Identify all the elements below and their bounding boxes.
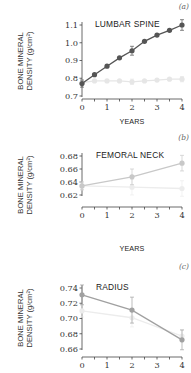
x-tick-label: 4: [179, 360, 184, 370]
data-point: [129, 308, 134, 313]
data-point: [154, 77, 159, 82]
data-point: [167, 77, 172, 82]
chart-figure: (a)0.70.80.91.01.101234YEARSBONE MINERAL…: [0, 0, 191, 373]
panel-title: RADIUS: [96, 282, 129, 292]
x-tick-label: 2: [129, 210, 134, 220]
y-tick-label: 1.1: [65, 20, 78, 30]
panel-letter: (a): [179, 2, 189, 11]
chart-panel-lumbar-spine: (a)0.70.80.91.01.101234YEARSBONE MINERAL…: [16, 2, 189, 126]
y-tick-label: 0.70: [60, 313, 78, 323]
x-tick-label: 3: [154, 210, 159, 220]
data-point: [117, 55, 122, 60]
y-tick-label: 0.66: [60, 344, 78, 354]
x-tick-label: 0: [79, 102, 84, 112]
x-tick-label: 3: [154, 102, 159, 112]
y-tick-label: 0.64: [60, 177, 78, 187]
svg-text:BONE MINERAL: BONE MINERAL: [16, 156, 25, 213]
x-tick-label: 4: [179, 210, 184, 220]
data-point: [129, 174, 134, 179]
data-point: [179, 186, 184, 191]
panel-title: LUMBAR SPINE: [95, 19, 160, 29]
data-point: [142, 39, 147, 44]
y-tick-label: 0.72: [60, 298, 78, 308]
panel-letter: (b): [178, 133, 189, 142]
y-axis-title: BONE MINERALDENSITY (g/cm²): [16, 31, 34, 90]
data-point: [167, 28, 172, 33]
y-tick-label: 0.8: [65, 73, 78, 83]
svg-text:BONE MINERAL: BONE MINERAL: [16, 289, 25, 346]
x-tick-label: 4: [179, 102, 184, 112]
x-tick-label: 1: [104, 102, 109, 112]
x-tick-label: 0: [79, 360, 84, 370]
chart-panel-femoral-neck: (b)0.620.640.660.6801234YEARSBONE MINERA…: [16, 133, 189, 253]
data-point: [79, 308, 84, 313]
svg-text:DENSITY (g/cm²): DENSITY (g/cm²): [25, 31, 34, 90]
data-point: [129, 48, 134, 53]
x-tick-label: 3: [154, 360, 159, 370]
data-point: [179, 161, 184, 166]
data-point: [117, 78, 122, 83]
svg-text:DENSITY (g/cm²): DENSITY (g/cm²): [25, 288, 34, 347]
panel-title: FEMORAL NECK: [96, 150, 164, 160]
x-tick-label: 2: [129, 360, 134, 370]
data-point: [92, 78, 97, 83]
data-point: [154, 33, 159, 38]
x-tick-label: 1: [104, 360, 109, 370]
y-tick-label: 0.9: [65, 55, 78, 65]
chart-panel-radius: (c)0.660.680.700.720.7401234BONE MINERAL…: [16, 262, 189, 370]
y-tick-label: 0.62: [60, 190, 78, 200]
data-point: [92, 72, 97, 77]
x-tick-label: 2: [129, 102, 134, 112]
y-tick-label: 0.74: [60, 283, 78, 293]
data-point: [142, 78, 147, 83]
y-axis-title: BONE MINERALDENSITY (g/cm²): [16, 288, 34, 347]
panel-letter: (c): [179, 262, 189, 271]
data-point: [129, 79, 134, 84]
y-tick-label: 0.66: [60, 164, 78, 174]
data-point: [179, 22, 184, 27]
data-point: [79, 81, 84, 86]
x-axis-title: YEARS: [120, 117, 145, 126]
x-tick-label: 1: [104, 210, 109, 220]
y-tick-label: 0.68: [60, 151, 78, 161]
y-axis-title: BONE MINERALDENSITY (g/cm²): [16, 155, 34, 214]
data-point: [179, 77, 184, 82]
data-point: [104, 64, 109, 69]
data-point: [179, 337, 184, 342]
svg-text:BONE MINERAL: BONE MINERAL: [16, 32, 25, 89]
x-axis-title: YEARS: [120, 244, 145, 253]
data-point: [79, 292, 84, 297]
data-point: [79, 183, 84, 188]
x-tick-label: 0: [79, 210, 84, 220]
y-tick-label: 0.7: [65, 91, 78, 101]
data-point: [129, 185, 134, 190]
data-point: [104, 78, 109, 83]
y-tick-label: 0.68: [60, 329, 78, 339]
svg-text:DENSITY (g/cm²): DENSITY (g/cm²): [25, 155, 34, 214]
y-tick-label: 1.0: [65, 38, 78, 48]
